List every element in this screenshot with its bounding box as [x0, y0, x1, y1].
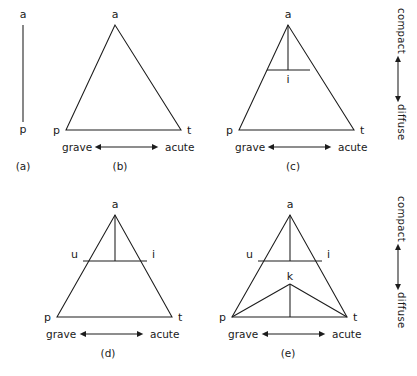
vertical-axis-label-diffuse-top: diffuse [396, 104, 407, 141]
panel-c-axis-label-grave: grave [235, 141, 265, 153]
panel-d-caption: (d) [101, 347, 116, 359]
panel-e-vertex-label-p: p [219, 311, 226, 324]
panel-a-caption: (a) [16, 160, 31, 172]
panel-e-vertex-label-t: t [353, 311, 358, 324]
panel-e-axis-label-acute: acute [332, 328, 361, 340]
panel-c-triangle [239, 25, 354, 130]
panel-d-vertex-label-i: i [152, 248, 155, 261]
panel-b-caption: (b) [113, 160, 128, 172]
panel-e-horizontal-axis: grave acute [228, 328, 361, 340]
panel-c-axis-label-acute: acute [338, 141, 367, 153]
panel-d: a u i p t grave acute (d) [44, 198, 183, 359]
panel-c-vertex-label-i: i [286, 73, 289, 86]
panel-d-vertex-label-a: a [112, 198, 119, 211]
panel-e: a u i k p t grave acute (e) [219, 198, 361, 359]
panel-b-horizontal-axis: grave acute [62, 141, 194, 153]
panel-e-vertex-label-u: u [246, 248, 253, 261]
panel-d-horizontal-axis: grave acute [46, 328, 179, 340]
panel-b-triangle [66, 25, 181, 130]
panel-c-vertex-label-t: t [360, 124, 365, 137]
panel-a-vertex-label-p: p [20, 123, 27, 136]
vertical-axis-label-diffuse-bottom: diffuse [396, 292, 407, 329]
panel-e-vertex-label-i: i [327, 248, 330, 261]
panel-b: a p t grave acute (b) [53, 8, 194, 172]
panel-b-vertex-label-p: p [53, 124, 60, 137]
panel-e-vertex-label-k: k [287, 270, 294, 283]
panel-e-caption: (e) [281, 347, 296, 359]
panel-a: a p (a) [16, 8, 31, 172]
vertical-axis-top-row: compact diffuse [396, 8, 407, 141]
panel-c-caption: (c) [286, 160, 300, 172]
panel-d-vertex-label-p: p [44, 311, 51, 324]
panel-d-vertex-label-t: t [178, 311, 183, 324]
panel-d-vertex-label-u: u [71, 248, 78, 261]
panel-d-axis-label-grave: grave [46, 328, 76, 340]
panel-c-vertex-label-p: p [226, 124, 233, 137]
panel-a-vertex-label-a: a [20, 8, 27, 21]
panel-e-vertex-label-a: a [287, 198, 294, 211]
panel-d-axis-label-acute: acute [150, 328, 179, 340]
vertical-axis-label-compact-bottom: compact [396, 196, 407, 242]
panel-c-vertex-label-a: a [285, 8, 292, 21]
panel-b-vertex-label-a: a [112, 8, 119, 21]
panel-c: a i p t grave acute (c) [226, 8, 367, 172]
panel-b-axis-label-acute: acute [165, 141, 194, 153]
panel-e-axis-label-grave: grave [228, 328, 258, 340]
vertical-axis-label-compact-top: compact [396, 8, 407, 54]
vertical-axis-bottom-row: compact diffuse [396, 196, 407, 329]
figure-root: a p (a) a p t grave acute (b) a i p [0, 0, 417, 376]
panel-b-axis-label-grave: grave [62, 141, 92, 153]
panel-b-vertex-label-t: t [187, 124, 192, 137]
panel-c-horizontal-axis: grave acute [235, 141, 367, 153]
vowel-space-diagram: a p (a) a p t grave acute (b) a i p [0, 0, 417, 376]
